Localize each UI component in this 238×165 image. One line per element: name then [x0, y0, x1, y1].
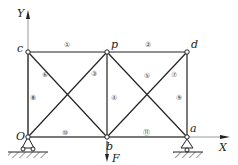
member-number-label: ⑨	[176, 94, 182, 102]
member-number-label: ③	[91, 70, 97, 78]
member-number-label: ④	[111, 94, 117, 102]
y-axis-label: Y	[17, 7, 26, 20]
node-p	[105, 50, 109, 54]
x-axis-label: X	[218, 141, 228, 154]
member-number-label: ⑧	[30, 94, 36, 102]
node-label: c	[17, 42, 23, 55]
member-number-label: ⑥	[42, 71, 48, 79]
node-label: O	[16, 130, 25, 143]
node-label: p	[111, 38, 118, 51]
member-number-label: ⑦	[171, 71, 177, 79]
node-label: d	[191, 38, 198, 51]
roller-support-a	[173, 139, 203, 158]
node-a	[185, 135, 189, 139]
node-label: b	[106, 140, 113, 153]
load-label: F	[111, 152, 120, 165]
truss-members	[28, 52, 187, 137]
member-number-label: ⑪	[143, 129, 150, 137]
pin-support-O	[8, 137, 48, 158]
truss-diagram: Y X ①②③④⑤⑥⑦⑧⑨⑩⑪ F	[0, 0, 238, 165]
node-O	[26, 135, 30, 139]
member-number-label: ②	[145, 41, 151, 49]
node-b	[105, 135, 109, 139]
x-axis: X	[28, 135, 230, 154]
node-d	[185, 50, 189, 54]
member-labels: ①②③④⑤⑥⑦⑧⑨⑩⑪	[30, 41, 182, 137]
node-c	[26, 50, 30, 54]
node-label: a	[190, 122, 197, 135]
truss-svg: Y X ①②③④⑤⑥⑦⑧⑨⑩⑪ F	[0, 0, 238, 165]
member-number-label: ⑤	[144, 72, 150, 80]
member-number-label: ①	[64, 41, 70, 49]
member-number-label: ⑩	[62, 129, 68, 137]
